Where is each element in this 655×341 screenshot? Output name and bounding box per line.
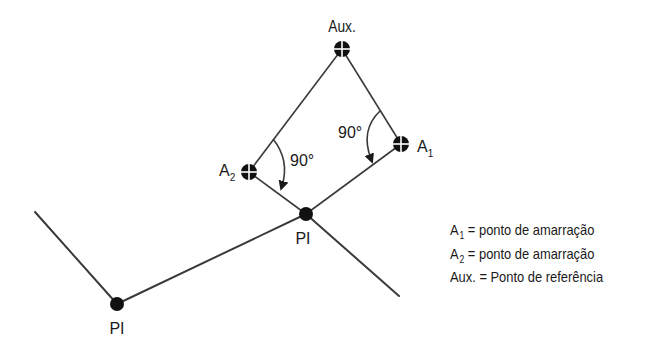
angle-label-a1: 90° xyxy=(338,124,362,141)
legend-subscript: 1 xyxy=(459,230,464,241)
pi-center-marker xyxy=(299,207,313,221)
legend-symbol: Aux. xyxy=(450,268,476,285)
a1-station-icon xyxy=(393,136,409,152)
legend-subscript: 2 xyxy=(459,254,464,265)
legend-symbol: A xyxy=(450,245,459,262)
tie-line-a2-pi xyxy=(249,172,306,214)
pi-left-marker xyxy=(110,297,124,311)
alignment-lines xyxy=(35,212,399,304)
survey-tie-diagram: Aux. A1 A2 90° 90° PI PI xyxy=(0,0,655,341)
a2-label: A2 xyxy=(219,162,236,183)
pi-center-label: PI xyxy=(295,230,310,247)
tie-line-a1-pi xyxy=(306,144,401,214)
angle-arc-a2 xyxy=(273,139,285,186)
aux-station-icon xyxy=(334,41,350,57)
aux-label: Aux. xyxy=(328,17,356,35)
alignment-left-segment xyxy=(35,212,117,304)
legend-item-aux: Aux. = Ponto de referência xyxy=(450,266,603,288)
legend-symbol: A xyxy=(450,221,459,238)
angle-label-a2: 90° xyxy=(290,152,314,169)
legend-text: = Ponto de referência xyxy=(479,268,603,285)
angle-arc-a1 xyxy=(367,111,380,159)
legend: A1 = ponto de amarração A2 = ponto de am… xyxy=(450,219,603,288)
legend-item-a2: A2 = ponto de amarração xyxy=(450,243,603,267)
tie-lines xyxy=(249,49,401,214)
a1-label: A1 xyxy=(417,138,434,159)
a2-station-icon xyxy=(241,164,257,180)
pi-left-label: PI xyxy=(109,320,124,337)
legend-text: = ponto de amarração xyxy=(468,245,595,262)
legend-text: = ponto de amarração xyxy=(468,221,595,238)
alignment-middle-segment xyxy=(117,214,306,304)
legend-item-a1: A1 = ponto de amarração xyxy=(450,219,603,243)
alignment-right-segment xyxy=(306,214,399,296)
